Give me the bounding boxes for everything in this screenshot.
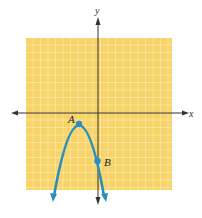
graph-svg bbox=[0, 0, 202, 218]
y-axis-bottom-arrow bbox=[96, 197, 101, 205]
x-axis-right-arrow bbox=[182, 111, 189, 116]
point-b bbox=[94, 158, 100, 164]
curve-left-arrow bbox=[50, 193, 57, 202]
coordinate-graph: y x A B bbox=[0, 0, 202, 218]
x-axis-label: x bbox=[189, 108, 193, 119]
y-axis-label: y bbox=[95, 5, 99, 16]
point-a-label: A bbox=[68, 113, 75, 125]
y-axis-top-arrow bbox=[96, 17, 101, 25]
point-b-label: B bbox=[104, 156, 111, 168]
x-axis-left-arrow bbox=[11, 111, 18, 116]
point-a bbox=[76, 121, 82, 127]
curve-right-arrow bbox=[101, 193, 108, 202]
